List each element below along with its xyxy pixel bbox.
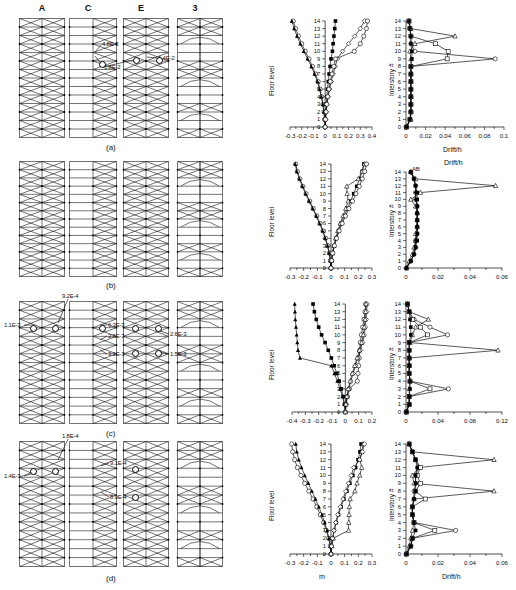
figure-root: A C E 3 (a) (b) (c) (d) 4.8E-3 1.8E-2 1.… xyxy=(0,0,516,590)
y-axis-label-a-displacement: Floor level xyxy=(268,66,275,96)
frame-elevation-3-panel-d xyxy=(176,440,224,568)
plastic-hinge-marker xyxy=(133,57,140,64)
svg-text:0: 0 xyxy=(398,551,401,557)
x-axis-label-d-displacement: m xyxy=(319,573,325,580)
svg-text:-0.3: -0.3 xyxy=(285,273,296,280)
panel-caption-c: (c) xyxy=(106,429,115,438)
svg-text:0: 0 xyxy=(323,265,326,271)
svg-text:0: 0 xyxy=(398,409,401,415)
svg-text:1: 1 xyxy=(317,116,320,122)
frame-elevation-A-panel-a xyxy=(18,17,66,139)
svg-text:1: 1 xyxy=(337,401,340,407)
svg-text:8: 8 xyxy=(317,63,320,69)
plastic-hinge-marker xyxy=(132,325,139,332)
svg-text:0: 0 xyxy=(323,132,327,139)
svg-text:4: 4 xyxy=(398,238,402,244)
annotation-b-AB: AB xyxy=(412,166,420,172)
frame-column-header-C: C xyxy=(68,3,108,13)
plastic-hinge-marker xyxy=(132,350,139,357)
svg-text:14: 14 xyxy=(314,18,321,24)
svg-text:2: 2 xyxy=(398,109,401,115)
frame-elevation-3-panel-b xyxy=(176,160,224,278)
frame-column-header-E: E xyxy=(121,3,161,13)
chart-c-displacement: -0.4-0.3-0.2-0.100.10.201234567891011121… xyxy=(258,298,378,430)
svg-text:6: 6 xyxy=(398,79,401,85)
chart-d-drift: 00.020.040.0601234567891011121314 xyxy=(378,438,512,572)
y-axis-label-b-drift: Interstory # xyxy=(388,205,395,238)
svg-text:1: 1 xyxy=(323,258,326,264)
svg-text:11: 11 xyxy=(320,465,326,471)
svg-text:11: 11 xyxy=(395,41,401,47)
svg-text:10: 10 xyxy=(314,48,320,54)
svg-text:0: 0 xyxy=(329,273,333,280)
svg-text:11: 11 xyxy=(395,465,401,471)
svg-text:0.3: 0.3 xyxy=(356,132,365,139)
y-axis-label-d-displacement: Floor level xyxy=(268,491,275,521)
frame-column-header-A: A xyxy=(22,3,62,13)
svg-text:5: 5 xyxy=(323,512,326,518)
x-axis-label-a-drift: Drift/h xyxy=(443,146,462,153)
svg-text:0.12: 0.12 xyxy=(496,417,509,424)
panel-caption-b: (b) xyxy=(106,281,116,290)
svg-text:-0.2: -0.2 xyxy=(296,132,307,139)
svg-text:1: 1 xyxy=(398,116,401,122)
frame-elevation-A-panel-c xyxy=(18,300,66,425)
svg-text:3: 3 xyxy=(398,244,401,250)
svg-text:0.1: 0.1 xyxy=(354,417,363,424)
svg-text:9: 9 xyxy=(398,480,401,486)
frame-column-header-3: 3 xyxy=(175,3,215,13)
y-axis-label-b-displacement: Floor level xyxy=(268,207,275,237)
svg-text:10: 10 xyxy=(334,332,340,338)
svg-text:12: 12 xyxy=(320,457,326,463)
svg-text:12: 12 xyxy=(314,33,320,39)
svg-text:0.06: 0.06 xyxy=(459,132,472,139)
frame-elevation-3-panel-a xyxy=(176,17,224,139)
svg-text:8: 8 xyxy=(323,488,326,494)
svg-text:12: 12 xyxy=(395,316,401,322)
svg-text:12: 12 xyxy=(334,316,340,322)
svg-text:0.02: 0.02 xyxy=(432,273,445,280)
svg-text:4: 4 xyxy=(398,520,402,526)
plastic-hinge-marker xyxy=(52,325,59,332)
svg-text:7: 7 xyxy=(337,355,340,361)
svg-text:13: 13 xyxy=(320,449,326,455)
plastic-hinge-marker xyxy=(99,325,106,332)
y-axis-label-c-displacement: Floor level xyxy=(268,350,275,380)
svg-text:7: 7 xyxy=(398,355,401,361)
svg-text:-0.3: -0.3 xyxy=(285,559,296,566)
svg-text:0.2: 0.2 xyxy=(354,559,363,566)
svg-text:0.04: 0.04 xyxy=(439,132,452,139)
svg-text:2: 2 xyxy=(398,394,401,400)
svg-text:0.3: 0.3 xyxy=(368,559,377,566)
frame-elevation-C-panel-d xyxy=(68,440,118,568)
svg-text:0: 0 xyxy=(404,417,408,424)
svg-text:12: 12 xyxy=(395,33,401,39)
svg-text:1: 1 xyxy=(398,258,401,264)
svg-text:5: 5 xyxy=(398,231,401,237)
svg-text:8: 8 xyxy=(337,347,340,353)
svg-text:0.2: 0.2 xyxy=(354,273,363,280)
svg-text:-0.1: -0.1 xyxy=(308,132,319,139)
chart-b-drift: 00.020.040.0601234567891011121314 xyxy=(378,158,512,286)
svg-text:0.02: 0.02 xyxy=(420,132,433,139)
chart-a-drift: 00.020.040.060.080.101234567891011121314 xyxy=(378,15,512,145)
svg-text:14: 14 xyxy=(320,161,327,167)
frame-elevation-C-panel-c xyxy=(68,300,118,425)
svg-text:14: 14 xyxy=(395,169,402,175)
svg-text:0: 0 xyxy=(398,265,401,271)
svg-text:13: 13 xyxy=(395,26,401,32)
chart-b-displacement: -0.3-0.2-0.100.10.20.3012345678910111213… xyxy=(258,158,378,286)
svg-text:14: 14 xyxy=(395,301,402,307)
svg-text:0: 0 xyxy=(398,124,401,130)
svg-text:14: 14 xyxy=(334,301,341,307)
panel-caption-a: (a) xyxy=(106,143,116,152)
plastic-hinge-marker xyxy=(132,466,139,473)
svg-text:0.06: 0.06 xyxy=(496,559,509,566)
frame-elevation-E-panel-a xyxy=(122,17,170,139)
svg-text:0.04: 0.04 xyxy=(464,273,477,280)
frame-elevation-A-panel-d xyxy=(18,440,66,568)
svg-text:7: 7 xyxy=(323,496,326,502)
svg-text:6: 6 xyxy=(398,504,401,510)
svg-text:4: 4 xyxy=(398,94,402,100)
svg-text:0: 0 xyxy=(404,559,408,566)
